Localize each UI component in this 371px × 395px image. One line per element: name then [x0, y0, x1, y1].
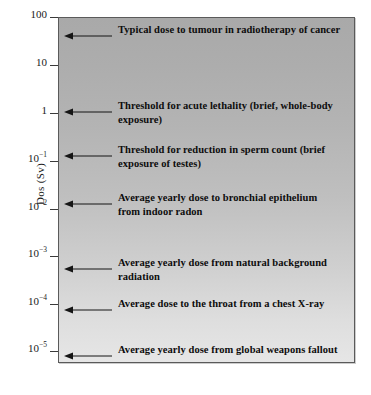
- y-tick-mark: [50, 65, 58, 66]
- annotation-text: Average dose to the throat from a chest …: [118, 297, 371, 311]
- y-tick-label-1: 1: [42, 105, 48, 116]
- annotation-text: Average yearly dose from natural backgro…: [118, 256, 371, 283]
- left-arrow-icon: [64, 195, 112, 205]
- y-tick-label-1e-4: 10−4: [28, 296, 47, 307]
- y-tick-label-1e-3: 10−3: [28, 248, 47, 259]
- y-axis-title: Dos (Sv): [34, 124, 46, 244]
- y-tick-mark: [50, 256, 58, 257]
- y-tick-mark: [50, 161, 58, 162]
- radiation-dose-chart: Dos (Sv) 100 10 1 10−1 10−2 10−3 10−4 10…: [0, 0, 371, 395]
- annotation-text: Threshold for acute lethality (brief, wh…: [118, 99, 371, 126]
- y-tick-mark: [50, 113, 58, 114]
- annotation-text: Average yearly dose from global weapons …: [118, 343, 371, 357]
- y-tick-label-1e-5: 10−5: [28, 343, 47, 354]
- y-tick-label-1e-2: 10−2: [28, 201, 47, 212]
- left-arrow-icon: [64, 27, 112, 37]
- annotation-text: Typical dose to tumour in radiotherapy o…: [118, 23, 371, 37]
- y-tick-mark: [50, 304, 58, 305]
- annotation-text: Average yearly dose to bronchial epithel…: [118, 191, 371, 218]
- left-arrow-icon: [64, 301, 112, 311]
- annotation-text: Threshold for reduction in sperm count (…: [118, 143, 371, 170]
- left-arrow-icon: [64, 103, 112, 113]
- left-arrow-icon: [64, 260, 112, 270]
- y-tick-mark: [50, 351, 58, 352]
- left-arrow-icon: [64, 347, 112, 357]
- y-tick-mark: [50, 17, 58, 18]
- y-tick-label-100: 100: [31, 9, 48, 20]
- left-arrow-icon: [64, 147, 112, 157]
- y-tick-label-10: 10: [36, 57, 47, 68]
- y-tick-label-1e-1: 10−1: [28, 153, 47, 164]
- y-tick-mark: [50, 209, 58, 210]
